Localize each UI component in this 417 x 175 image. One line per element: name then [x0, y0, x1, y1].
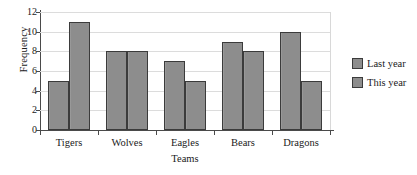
- y-tick-label-10: 10: [20, 27, 37, 37]
- bar-tigers-this-year: [69, 22, 90, 130]
- legend-item-last-year: Last year: [352, 55, 416, 71]
- bar-eagles-this-year: [185, 81, 206, 130]
- x-tick-mark-1: [98, 131, 99, 135]
- x-category-label-tigers: Tigers: [56, 137, 82, 148]
- legend-swatch-icon: [352, 77, 363, 88]
- legend-item-this-year: This year: [352, 74, 416, 90]
- y-tick-label-8: 8: [20, 46, 37, 56]
- x-category-label-wolves: Wolves: [111, 137, 142, 148]
- bar-bears-this-year: [243, 51, 264, 130]
- y-tick-label-0: 0: [20, 125, 37, 135]
- legend-label: Last year: [367, 58, 406, 69]
- y-tick-label-2: 2: [20, 105, 37, 115]
- chart-title-remnant: [0, 0, 417, 5]
- plot-right-border: [330, 12, 331, 130]
- legend-label: This year: [367, 77, 406, 88]
- x-axis-title: Teams: [0, 153, 370, 164]
- bar-dragons-this-year: [301, 81, 322, 130]
- plot-area: [40, 12, 330, 130]
- bar-wolves-this-year: [127, 51, 148, 130]
- x-axis-line: [36, 130, 334, 131]
- x-tick-mark-2: [156, 131, 157, 135]
- y-tick-label-12: 12: [20, 7, 37, 17]
- y-tick-label-6: 6: [20, 66, 37, 76]
- x-tick-mark-4: [272, 131, 273, 135]
- x-tick-mark-0: [40, 131, 41, 135]
- bar-chart-figure: Frequency 024681012 TigersWolvesEaglesBe…: [0, 0, 417, 175]
- x-tick-mark-3: [214, 131, 215, 135]
- x-category-label-dragons: Dragons: [283, 137, 319, 148]
- bar-eagles-last-year: [164, 61, 185, 130]
- bar-tigers-last-year: [48, 81, 69, 130]
- bar-wolves-last-year: [106, 51, 127, 130]
- y-axis-tick-labels: 024681012: [20, 8, 37, 134]
- y-tick-label-4: 4: [20, 86, 37, 96]
- bar-series-container: [40, 12, 330, 130]
- bar-bears-last-year: [222, 42, 243, 131]
- chart-legend: Last yearThis year: [352, 55, 416, 93]
- bar-dragons-last-year: [280, 32, 301, 130]
- x-tick-mark-5: [330, 131, 331, 135]
- legend-swatch-icon: [352, 58, 363, 69]
- x-category-label-bears: Bears: [231, 137, 255, 148]
- x-category-label-eagles: Eagles: [171, 137, 199, 148]
